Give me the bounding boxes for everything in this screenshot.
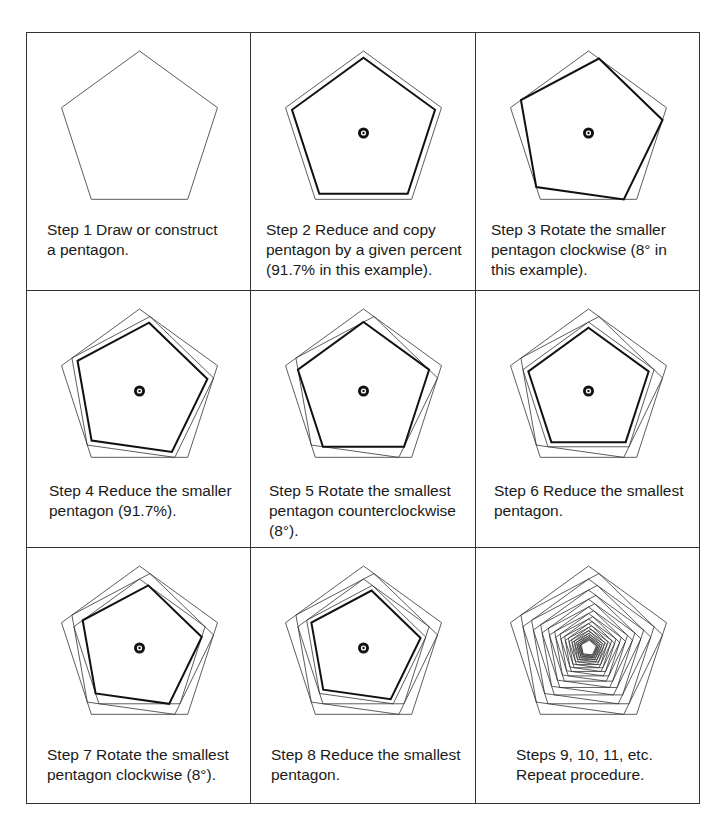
step-4-cell: Step 4 Reduce the smaller pentagon (91.7… — [27, 291, 251, 548]
previous-pentagon — [298, 579, 429, 704]
pentagon-figure — [476, 291, 701, 491]
step-8-cell: Step 8 Reduce the smallest pentagon. — [251, 548, 476, 805]
current-pentagon — [292, 58, 435, 194]
step-3-caption: Step 3 Rotate the smaller pentagon clock… — [491, 220, 667, 280]
steps-9-plus-caption: Steps 9, 10, 11, etc. Repeat procedure. — [516, 745, 653, 785]
pentagon-figure — [476, 33, 701, 233]
previous-pentagon — [62, 566, 218, 714]
step-3-cell: Step 3 Rotate the smaller pentagon clock… — [476, 33, 701, 291]
previous-pentagon — [286, 309, 442, 457]
step-9-cell: Steps 9, 10, 11, etc. Repeat procedure. — [476, 548, 701, 805]
previous-pentagon — [541, 595, 641, 695]
previous-pentagon — [548, 604, 632, 688]
step-5-cell: Step 5 Rotate the smallest pentagon coun… — [251, 291, 476, 548]
step-7-caption: Step 7 Rotate the smallest pentagon cloc… — [47, 745, 229, 785]
center-point-icon — [358, 128, 369, 139]
step-2-caption: Step 2 Reduce and copy pentagon by a giv… — [266, 220, 462, 280]
previous-pentagon — [523, 322, 654, 447]
step-4-caption: Step 4 Reduce the smaller pentagon (91.7… — [49, 481, 232, 521]
pentagon-spiral-figure — [476, 548, 701, 748]
step-2-cell: Step 2 Reduce and copy pentagon by a giv… — [251, 33, 476, 291]
previous-pentagon — [62, 309, 218, 457]
previous-pentagon — [523, 579, 654, 704]
step-5-caption: Step 5 Rotate the smallest pentagon coun… — [269, 481, 456, 541]
previous-pentagon — [286, 51, 442, 199]
center-point-icon — [583, 128, 594, 139]
previous-pentagon — [521, 574, 663, 715]
pentagon-figure — [27, 548, 251, 748]
center-point-icon — [583, 386, 594, 397]
previous-pentagon — [511, 309, 667, 457]
pentagon-figure — [251, 33, 476, 233]
previous-pentagon — [555, 611, 626, 681]
previous-pentagon — [532, 585, 651, 703]
steps-grid: Step 1 Draw or construct a pentagon. Ste… — [26, 32, 700, 804]
step-8-caption: Step 8 Reduce the smallest pentagon. — [271, 745, 461, 785]
previous-pentagon — [286, 566, 442, 714]
previous-pentagon — [533, 590, 643, 695]
previous-pentagon — [568, 626, 610, 668]
pentagon-figure — [27, 291, 251, 491]
step-6-cell: Step 6 Reduce the smallest pentagon. — [476, 291, 701, 548]
previous-pentagon — [565, 622, 615, 672]
step-7-cell: Step 7 Rotate the smallest pentagon cloc… — [27, 548, 251, 805]
pentagon-figure — [251, 548, 476, 748]
pentagon-figure — [251, 291, 476, 491]
center-point-icon — [134, 386, 145, 397]
current-pentagon — [298, 322, 429, 447]
center-point-icon — [358, 386, 369, 397]
previous-pentagon — [511, 566, 667, 714]
step-1-cell: Step 1 Draw or construct a pentagon. — [27, 33, 251, 291]
pentagon-figure — [27, 33, 251, 233]
center-point-icon — [358, 643, 369, 654]
step-1-caption: Step 1 Draw or construct a pentagon. — [47, 220, 218, 260]
previous-pentagon — [560, 617, 620, 676]
previous-pentagon — [62, 51, 218, 199]
center-point-icon — [134, 643, 145, 654]
step-6-caption: Step 6 Reduce the smallest pentagon. — [494, 481, 684, 521]
